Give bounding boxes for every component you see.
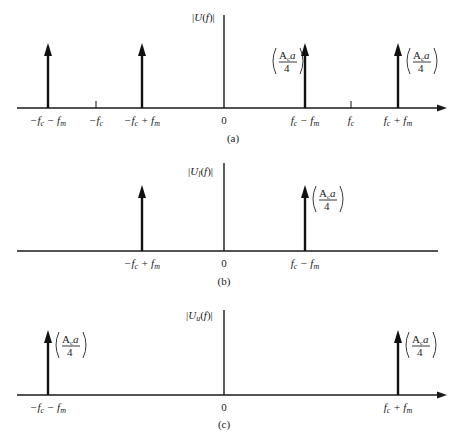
caption-b: (b)	[218, 275, 231, 288]
freq-label: fc + fm	[384, 114, 413, 128]
amplitude-label: Aca 4	[407, 48, 437, 74]
svg-text:4: 4	[67, 346, 73, 358]
caption-c: (c)	[218, 418, 231, 431]
impulse-arrow-icon	[44, 330, 52, 343]
freq-label: fc	[348, 114, 355, 128]
freq-label: −fc − fm	[30, 401, 66, 415]
axis-arrow-icon	[437, 392, 447, 399]
y-axis-label: |Ul(f)|	[188, 165, 213, 179]
amplitude-label: Aca 4	[273, 48, 303, 74]
spectrum-diagram: |U(f)| Aca 4 Ac	[0, 0, 465, 441]
svg-text:Aca: Aca	[319, 187, 336, 201]
svg-text:4: 4	[418, 62, 424, 74]
freq-label: −fc + fm	[124, 114, 160, 128]
impulse-neg-fc-plus-fm	[138, 185, 146, 251]
y-axis-label: |Uu(f)|	[186, 309, 213, 323]
freq-label: −fc − fm	[30, 114, 66, 128]
amplitude-label: Aca 4	[313, 186, 343, 212]
impulse-neg-fc-plus-fm	[138, 43, 146, 108]
freq-label: −fc + fm	[124, 257, 160, 271]
svg-text:4: 4	[324, 200, 330, 212]
svg-text:Aca: Aca	[413, 49, 430, 63]
svg-text:Aca: Aca	[412, 333, 429, 347]
y-axis-label: |U(f)|	[192, 11, 215, 24]
svg-text:Aca: Aca	[62, 333, 79, 347]
impulse-arrow-icon	[394, 43, 402, 56]
freq-label: fc − fm	[291, 257, 320, 271]
impulse-arrow-icon	[394, 330, 402, 343]
svg-text:4: 4	[284, 62, 290, 74]
impulse-fc-plus-fm	[394, 330, 402, 395]
impulse-fc-minus-fm	[301, 185, 309, 251]
amplitude-label: Aca 4	[406, 332, 436, 358]
impulse-neg-fc-minus-fm	[44, 43, 52, 108]
freq-label: −fc	[89, 114, 103, 128]
impulse-arrow-icon	[301, 185, 309, 198]
axis-arrow-icon	[437, 105, 447, 112]
svg-text:4: 4	[417, 346, 423, 358]
impulse-arrow-icon	[138, 185, 146, 198]
freq-label-zero: 0	[221, 257, 227, 269]
caption-a: (a)	[227, 132, 240, 145]
freq-label-zero: 0	[221, 401, 227, 413]
impulse-fc-plus-fm	[394, 43, 402, 108]
panel-c: |Uu(f)| Aca 4 Aca 4 −fc − fm 0 fc + fm (…	[17, 309, 447, 431]
freq-label-zero: 0	[221, 114, 227, 126]
impulse-arrow-icon	[138, 43, 146, 56]
panel-a: |U(f)| Aca 4 Ac	[17, 11, 447, 145]
impulse-arrow-icon	[44, 43, 52, 56]
amplitude-label: Aca 4	[56, 332, 86, 358]
impulse-neg-fc-minus-fm	[44, 330, 52, 395]
freq-label: fc + fm	[384, 401, 413, 415]
svg-text:Aca: Aca	[279, 49, 296, 63]
freq-label: fc − fm	[291, 114, 320, 128]
panel-b: |Ul(f)| Aca 4 −fc + fm 0 fc − fm (b)	[17, 163, 438, 288]
